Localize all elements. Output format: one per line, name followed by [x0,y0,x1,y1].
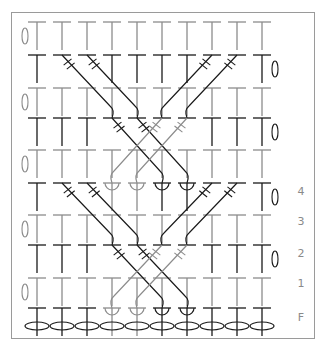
chain-stitch-icon [22,221,28,237]
chain-stitch-icon [272,189,278,205]
chain-stitch-icon [272,251,278,267]
chain-stitch-icon [22,284,28,300]
chain-stitch-icon [22,94,28,110]
chain-stitch-icon [22,28,28,44]
chain-stitch-icon [272,124,278,140]
crochet-chart [0,0,325,351]
chain-stitch-icon [22,156,28,172]
row-label-4: 4 [294,185,308,198]
row-label-foundation: F [294,311,308,324]
row-label-1: 1 [294,277,308,290]
row-label-3: 3 [294,215,308,228]
chain-stitch-icon [272,61,278,77]
row-label-2: 2 [294,247,308,260]
